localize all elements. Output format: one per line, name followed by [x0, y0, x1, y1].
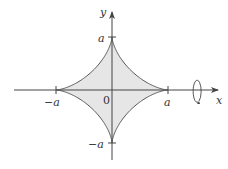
top-label: a	[98, 33, 105, 44]
left-label: −a	[44, 97, 60, 108]
right-label: a	[164, 97, 171, 108]
diagram-canvas	[0, 0, 228, 169]
origin-label: 0	[103, 95, 110, 106]
y-axis-label: y	[100, 7, 106, 18]
astroid-diagram: y x a −a −a a 0	[0, 0, 228, 169]
x-axis-label: x	[216, 95, 222, 106]
bottom-label: −a	[88, 139, 104, 150]
rotation-arrow-icon	[193, 80, 201, 104]
